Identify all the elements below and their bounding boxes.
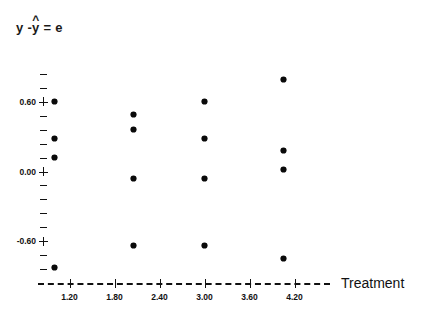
asterisk-icon	[202, 176, 207, 181]
asterisk-icon	[281, 256, 286, 261]
asterisk-icon	[52, 265, 57, 270]
hat-accent-icon: ^	[32, 14, 39, 26]
data-point-marker	[50, 263, 59, 272]
data-point-marker	[279, 75, 288, 84]
x-axis-tick-mark	[295, 279, 296, 288]
asterisk-icon	[281, 167, 286, 172]
data-point-marker	[279, 146, 288, 155]
plot-title-lhs: y -	[16, 20, 32, 35]
x-axis-tick-label: 2.40	[135, 292, 185, 302]
data-point-marker	[200, 134, 209, 143]
y-axis-minor-tick-mark	[40, 144, 47, 145]
x-axis-tick-mark	[115, 279, 116, 288]
asterisk-icon	[131, 112, 136, 117]
data-point-marker	[129, 241, 138, 250]
plot-title: y -^y = e	[16, 18, 63, 35]
x-axis-tick-mark	[205, 279, 206, 288]
asterisk-icon	[52, 136, 57, 141]
y-axis-major-tick-mark	[39, 241, 48, 242]
y-axis-minor-tick-mark	[40, 199, 47, 200]
y-axis-tick-label: 0.60	[2, 97, 36, 107]
data-point-marker	[129, 110, 138, 119]
y-axis-minor-tick-mark	[40, 213, 47, 214]
x-axis-tick-label: 1.20	[45, 292, 95, 302]
data-point-marker	[129, 125, 138, 134]
y-axis-minor-tick-mark	[40, 130, 47, 131]
y-axis-tick-label: -0.60	[2, 236, 36, 246]
data-point-marker	[50, 153, 59, 162]
y-axis-minor-tick-mark	[40, 185, 47, 186]
data-point-marker	[50, 97, 59, 106]
x-axis-tick-mark	[160, 279, 161, 288]
data-point-marker	[50, 134, 59, 143]
asterisk-icon	[52, 155, 57, 160]
plot-title-rhs: = e	[44, 20, 63, 35]
asterisk-icon	[281, 148, 286, 153]
data-point-marker	[200, 97, 209, 106]
asterisk-icon	[202, 136, 207, 141]
residual-scatter-plot: y -^y = e -0.600.000.60 1.201.802.403.00…	[0, 0, 429, 315]
y-axis-minor-tick-mark	[40, 116, 47, 117]
asterisk-icon	[131, 176, 136, 181]
data-point-marker	[279, 165, 288, 174]
y-axis-tick-label: 0.00	[2, 167, 36, 177]
y-axis-minor-tick-mark	[40, 74, 47, 75]
x-axis-tick-label: 1.80	[90, 292, 140, 302]
x-axis-tick-label: 3.00	[180, 292, 230, 302]
x-axis-tick-label: 4.20	[270, 292, 320, 302]
y-axis-minor-tick-mark	[40, 269, 47, 270]
asterisk-icon	[202, 99, 207, 104]
asterisk-icon	[131, 127, 136, 132]
asterisk-icon	[202, 243, 207, 248]
y-axis-minor-tick-mark	[40, 255, 47, 256]
y-axis-minor-tick-mark	[40, 227, 47, 228]
asterisk-icon	[131, 243, 136, 248]
y-axis-minor-tick-mark	[40, 158, 47, 159]
y-axis-major-tick-mark	[39, 172, 48, 173]
data-point-marker	[200, 241, 209, 250]
data-point-marker	[129, 174, 138, 183]
x-axis-title: Treatment	[341, 275, 404, 291]
x-axis-tick-label: 3.60	[225, 292, 275, 302]
y-axis-major-tick-mark	[39, 102, 48, 103]
data-point-marker	[279, 254, 288, 263]
y-axis-minor-tick-mark	[40, 88, 47, 89]
data-point-marker	[200, 174, 209, 183]
asterisk-icon	[281, 77, 286, 82]
x-axis-tick-mark	[250, 279, 251, 288]
asterisk-icon	[52, 99, 57, 104]
y-hat-group: ^y	[32, 18, 40, 35]
x-axis-tick-mark	[70, 279, 71, 288]
x-axis-line	[38, 283, 330, 285]
